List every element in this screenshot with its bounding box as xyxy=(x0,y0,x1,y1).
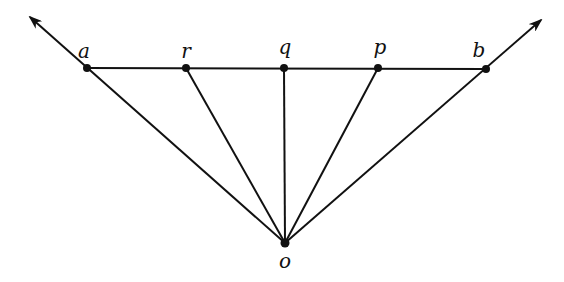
point-r xyxy=(182,64,190,72)
point-q xyxy=(280,64,288,72)
label-o: o xyxy=(279,249,291,273)
label-q: q xyxy=(279,35,292,59)
label-a: a xyxy=(78,39,90,63)
point-b xyxy=(482,65,490,73)
segment-op xyxy=(285,68,378,243)
segment-oq xyxy=(284,68,285,243)
point-o xyxy=(281,239,290,248)
point-a xyxy=(83,64,91,72)
label-r: r xyxy=(181,39,192,63)
point-p xyxy=(374,64,382,72)
label-b: b xyxy=(473,38,486,62)
segment-or xyxy=(186,68,285,243)
geometry-diagram: a r q p b o xyxy=(0,0,564,282)
ray-o-through-a xyxy=(30,17,285,243)
ray-o-through-b xyxy=(285,20,541,243)
label-p: p xyxy=(374,35,387,59)
